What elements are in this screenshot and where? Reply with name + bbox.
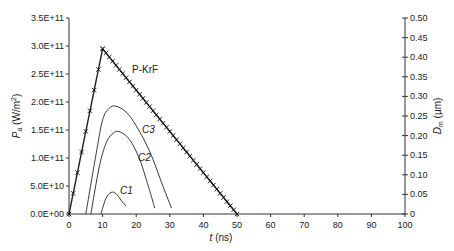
x-marker-icon [201, 171, 205, 175]
x-tick-label: 40 [198, 220, 208, 230]
x-tick-label: 70 [299, 220, 309, 230]
chart: 01020304050607080901000.0E+005.0E+101.0E… [0, 0, 454, 251]
x-marker-icon [114, 63, 118, 67]
x-marker-icon [215, 187, 219, 191]
series-label-c3: C3 [142, 124, 155, 135]
series-label-c2: C2 [138, 152, 151, 163]
series-line-c3 [86, 106, 172, 214]
x-marker-icon [141, 96, 145, 100]
x-marker-icon [184, 150, 188, 154]
x-marker-icon [174, 137, 178, 141]
y-tick-label-right: 0.25 [410, 111, 428, 121]
y-tick-label-left: 2.5E+11 [31, 69, 64, 79]
x-marker-icon [221, 195, 225, 199]
y-tick-label-right: 0.35 [410, 72, 428, 82]
x-tick-label: 80 [333, 220, 343, 230]
y-tick-label-right: 0.45 [410, 33, 428, 43]
y-tick-label-left: 1.5E+11 [31, 125, 64, 135]
x-tick-label: 0 [66, 220, 71, 230]
y-tick-label-left: 2.0E+11 [31, 97, 64, 107]
x-marker-icon [205, 175, 209, 179]
x-tick-label: 90 [366, 220, 376, 230]
x-tick-label: 50 [232, 220, 242, 230]
x-marker-icon [211, 183, 215, 187]
y-tick-label-left: 0.0E+00 [30, 209, 64, 219]
x-marker-icon [188, 154, 192, 158]
x-tick-label: 10 [98, 220, 108, 230]
series-line-c2 [91, 131, 155, 214]
x-marker-icon [168, 129, 172, 133]
axes: 01020304050607080901000.0E+005.0E+101.0E… [30, 13, 427, 230]
y-tick-label-right: 0.05 [410, 189, 428, 199]
x-marker-icon [117, 67, 121, 71]
y-tick-label-right: 0 [410, 209, 415, 219]
x-tick-label: 30 [165, 220, 175, 230]
y-tick-label-left: 3.5E+11 [31, 13, 64, 23]
x-marker-icon [181, 146, 185, 150]
x-axis-title: t (ns) [210, 232, 233, 243]
x-tick-label: 100 [397, 220, 412, 230]
y-tick-label-left: 5.0E+10 [30, 181, 64, 191]
x-marker-icon [104, 51, 108, 55]
x-marker-icon [147, 104, 151, 108]
x-marker-icon [194, 162, 198, 166]
x-marker-icon [191, 158, 195, 162]
y-tick-label-right: 0.10 [410, 170, 428, 180]
x-tick-label: 60 [266, 220, 276, 230]
x-marker-icon [154, 113, 158, 117]
x-marker-icon [110, 59, 114, 63]
x-marker-icon [144, 100, 148, 104]
x-marker-icon [158, 117, 162, 121]
y-tick-label-right: 0.40 [410, 52, 428, 62]
x-marker-icon [107, 55, 111, 59]
y-tick-label-left: 3.0E+11 [31, 41, 64, 51]
y-tick-label-left: 1.0E+11 [31, 153, 64, 163]
x-marker-icon [137, 92, 141, 96]
y-tick-label-right: 0.15 [410, 150, 428, 160]
svg-text:Dm (µm): Dm (µm) [432, 98, 444, 135]
svg-text:t (ns): t (ns) [210, 232, 233, 243]
x-marker-icon [161, 121, 165, 125]
x-marker-icon [124, 76, 128, 80]
x-marker-icon [134, 88, 138, 92]
y-axis-title-left: Pa (W/m2) [10, 94, 23, 138]
series-label-c1: C1 [120, 185, 133, 196]
x-marker-icon [178, 142, 182, 146]
y-tick-label-right: 0.20 [410, 131, 428, 141]
svg-text:Pa (W/m2): Pa (W/m2) [10, 94, 23, 138]
x-marker-icon [225, 199, 229, 203]
x-marker-icon [131, 84, 135, 88]
y-tick-label-right: 0.30 [410, 91, 428, 101]
x-marker-icon [231, 208, 235, 212]
x-marker-icon [208, 179, 212, 183]
y-axis-title-right: Dm (µm) [432, 98, 444, 135]
x-marker-icon [228, 204, 232, 208]
x-marker-icon [121, 71, 125, 75]
x-marker-icon [218, 191, 222, 195]
x-marker-icon [198, 166, 202, 170]
x-marker-icon [151, 109, 155, 113]
y-tick-label-right: 0.50 [410, 13, 428, 23]
x-tick-label: 20 [131, 220, 141, 230]
x-marker-icon [171, 133, 175, 137]
x-marker-icon [164, 125, 168, 129]
series-label-pkrf: P-KrF [132, 64, 158, 75]
x-marker-icon [127, 80, 131, 84]
